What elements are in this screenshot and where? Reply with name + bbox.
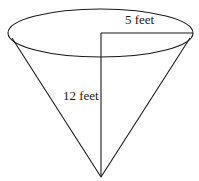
cone-right-side	[101, 38, 190, 177]
cone-diagram: 5 feet 12 feet	[0, 0, 199, 181]
radius-label: 5 feet	[125, 12, 155, 27]
cone-figure: 5 feet 12 feet	[0, 0, 199, 181]
height-label: 12 feet	[63, 88, 99, 103]
cone-left-side	[12, 38, 101, 177]
